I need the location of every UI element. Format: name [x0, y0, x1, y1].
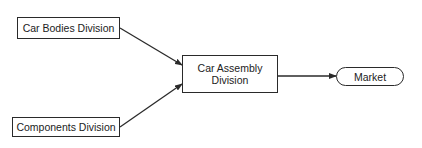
flow-diagram: Car Bodies Division Components Division … [0, 0, 422, 148]
node-label: Car Assembly Division [198, 62, 263, 86]
node-label: Car Bodies Division [23, 22, 115, 34]
arrow-bodies-to-assembly [120, 28, 182, 65]
car-assembly-division-node: Car Assembly Division [182, 55, 278, 93]
node-label: Components Division [16, 121, 115, 133]
node-label: Market [354, 71, 386, 83]
car-bodies-division-node: Car Bodies Division [17, 17, 120, 39]
market-node: Market [336, 67, 404, 86]
arrow-components-to-assembly [120, 84, 182, 127]
components-division-node: Components Division [12, 117, 120, 137]
